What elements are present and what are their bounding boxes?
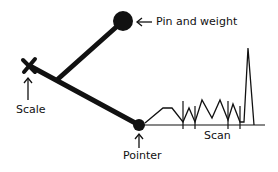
pendulum-bar (30, 66, 139, 125)
arrow-up-icon (24, 78, 32, 100)
scale-label: Scale (16, 104, 46, 115)
scan-label: Scan (204, 130, 231, 141)
pin-weight-label: Pin and weight (156, 16, 237, 27)
pin-weight-icon (113, 11, 133, 31)
arrow-left-icon (137, 18, 152, 26)
scan-waveform (145, 48, 254, 125)
pointer-label: Pointer (123, 150, 162, 161)
arrow-up-icon (135, 134, 143, 148)
pendulum-arm (58, 21, 123, 79)
